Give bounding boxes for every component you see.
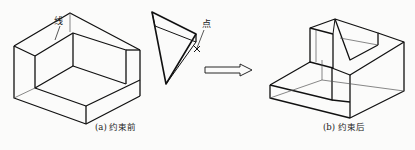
- constraint-diagram: 线 点 (a) 约束前 (b) 约束后: [0, 0, 415, 150]
- caption-before: (a) 约束前: [95, 123, 136, 132]
- l-shaped-block-before: [14, 13, 140, 124]
- line-label: 线: [54, 17, 63, 26]
- assembled-block-after: [270, 19, 404, 118]
- hollow-right-arrow-icon: [205, 64, 252, 76]
- triangular-wedge: [152, 12, 196, 84]
- hidden-edges-after: [270, 30, 404, 98]
- line-leader: [55, 26, 60, 40]
- caption-after: (b) 约束后: [323, 123, 365, 132]
- point-label: 点: [202, 20, 211, 29]
